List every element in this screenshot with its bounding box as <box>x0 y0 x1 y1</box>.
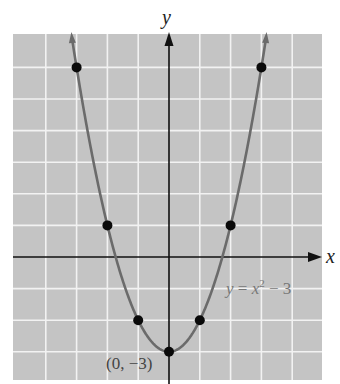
data-point <box>226 220 236 230</box>
data-point <box>256 62 266 72</box>
data-point <box>195 315 205 325</box>
eq-rest: − 3 <box>265 279 292 298</box>
grid-background <box>13 34 322 380</box>
data-point <box>72 62 82 72</box>
x-axis-label: x <box>326 245 335 268</box>
eq-y: y <box>226 279 234 298</box>
parabola-chart <box>0 0 340 384</box>
equation-label: y = x2 − 3 <box>226 277 291 299</box>
eq-equals: = <box>234 279 252 298</box>
vertex-label: (0, −3) <box>106 354 152 374</box>
y-axis-label: y <box>162 6 171 29</box>
data-point <box>133 315 143 325</box>
data-point <box>102 220 112 230</box>
data-point <box>164 347 174 357</box>
